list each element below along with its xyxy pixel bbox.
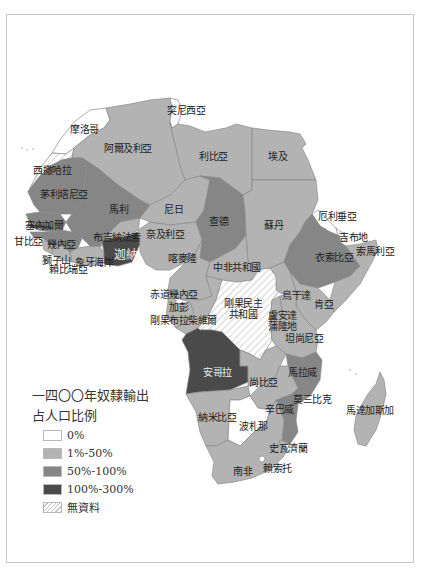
- label-ghana-togo-benin: 迦納: [114, 250, 137, 261]
- legend-item-3: 100%-300%: [43, 480, 149, 498]
- legend-item-2: 50%-100%: [43, 462, 149, 480]
- label-congo-brazzaville: 剛果布拉柴維爾: [150, 315, 217, 326]
- label-zambia: 尚比亞: [249, 377, 278, 388]
- label-drc: 剛果民主 共和國: [224, 298, 262, 320]
- legend-swatch-100-300pct: [43, 484, 62, 495]
- label-mozambique: 莫三比克: [293, 394, 331, 405]
- label-senegal: 塞內加爾: [25, 220, 63, 231]
- label-cote-divoire: 象牙海岸: [75, 257, 113, 268]
- label-botswana: 波札那: [239, 421, 268, 432]
- label-ethiopia: 衣索比亞: [315, 252, 353, 263]
- label-rwanda: 盧安達: [268, 310, 297, 321]
- legend-label: 1%-50%: [67, 447, 113, 460]
- legend-swatch-1-50pct: [43, 448, 62, 459]
- legend-label: 50%-100%: [67, 465, 127, 478]
- label-namibia: 納米比亞: [198, 412, 236, 423]
- map-legend: 一四〇〇年奴隸輸出 占人口比例 0% 1%-50% 50%-100% 100%-…: [32, 386, 149, 516]
- legend-item-4: 無資料: [43, 498, 149, 516]
- label-burkina-faso: 布吉納法索: [93, 232, 141, 243]
- legend-swatch-0pct: [43, 430, 62, 441]
- label-madagascar: 馬達加斯加: [346, 405, 394, 416]
- legend-swatch-no-data: [43, 502, 62, 513]
- label-uganda: 烏干達: [282, 290, 311, 301]
- label-gambia: 甘比亞: [14, 236, 43, 247]
- label-angola: 安哥拉: [203, 367, 232, 378]
- label-gabon: 加彭: [169, 302, 188, 313]
- label-rwanda-burundi: 盧安達 蒲隆地: [268, 310, 297, 332]
- label-swaziland: 史瓦濟蘭: [269, 443, 307, 454]
- legend-label: 無資料: [67, 499, 100, 515]
- legend-label: 100%-300%: [67, 483, 134, 496]
- label-mali: 馬利: [109, 204, 128, 215]
- label-guinea: 幾內亞: [47, 239, 76, 250]
- label-mauritania: 茅利塔尼亞: [40, 189, 88, 200]
- label-sudan: 蘇丹: [264, 220, 283, 231]
- label-drc-line2: 共和國: [224, 309, 262, 320]
- legend-item-1: 1%-50%: [43, 444, 149, 462]
- label-libya: 利比亞: [199, 151, 228, 162]
- label-drc-line1: 剛果民主: [224, 298, 262, 309]
- legend-label: 0%: [67, 429, 84, 442]
- label-zimbabwe: 辛巴威: [265, 404, 294, 415]
- label-tunisia: 突尼西亞: [167, 105, 205, 116]
- label-kenya: 肯亞: [314, 299, 333, 310]
- legend-title-line2: 占人口比例: [32, 406, 149, 426]
- label-eritrea: 厄利垂亞: [318, 211, 356, 222]
- label-nigeria: 奈及利亞: [146, 229, 184, 240]
- label-equatorial-guinea: 赤道幾內亞: [150, 289, 198, 300]
- label-algeria: 阿爾及利亞: [104, 143, 152, 154]
- label-somalia: 索馬利亞: [356, 246, 394, 257]
- label-lesotho: 賴索托: [263, 463, 292, 474]
- label-morocco: 摩洛哥: [70, 124, 99, 135]
- label-djibouti: 吉布地: [339, 232, 368, 243]
- label-south-africa: 南非: [233, 466, 252, 477]
- label-malawi: 馬拉威: [288, 367, 317, 378]
- legend-item-0: 0%: [43, 426, 149, 444]
- region-lesotho: [259, 456, 265, 462]
- legend-title-line1: 一四〇〇年奴隸輸出: [32, 386, 149, 406]
- label-niger: 尼日: [164, 204, 183, 215]
- legend-swatch-50-100pct: [43, 466, 62, 477]
- label-cameroon: 喀麥隆: [168, 253, 197, 264]
- label-car: 中非共和國: [213, 262, 261, 273]
- label-egypt: 埃及: [268, 151, 287, 162]
- label-tanzania: 坦尚尼亞: [285, 333, 323, 344]
- label-chad: 查德: [209, 216, 228, 227]
- label-western-sahara: 西撒哈拉: [33, 165, 71, 176]
- label-burundi: 蒲隆地: [268, 321, 297, 332]
